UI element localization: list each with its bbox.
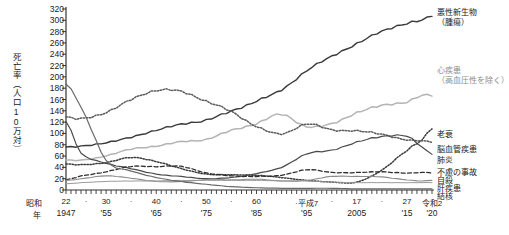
series-label-line: 肺炎 xyxy=(437,156,453,166)
series-label-1: 心疾患（高血圧性を除く） xyxy=(437,66,509,85)
series-label-0: 悪性新生物（腫瘍） xyxy=(437,8,477,27)
series-label-line: 脳血管疾患 xyxy=(437,145,477,155)
series-line-7 xyxy=(66,180,432,184)
series-label-line: 結核 xyxy=(437,192,453,202)
series-label-4: 肺炎 xyxy=(437,156,453,166)
series-line-4 xyxy=(66,122,432,179)
series-line-0 xyxy=(66,16,432,147)
series-label-8: 結核 xyxy=(437,192,453,202)
series-label-2: 老衰 xyxy=(437,130,453,140)
series-lines xyxy=(66,16,432,189)
series-label-line: 老衰 xyxy=(437,130,453,140)
axis-lines xyxy=(66,7,434,190)
series-label-line: 悪性新生物 xyxy=(437,8,477,18)
series-label-3: 脳血管疾患 xyxy=(437,145,477,155)
x-tick-marks xyxy=(66,190,432,194)
series-label-line: 心疾患 xyxy=(437,66,509,76)
series-label-line: （腫瘍） xyxy=(437,18,477,28)
series-line-3 xyxy=(66,89,432,143)
series-label-line: （高血圧性を除く） xyxy=(437,76,509,86)
